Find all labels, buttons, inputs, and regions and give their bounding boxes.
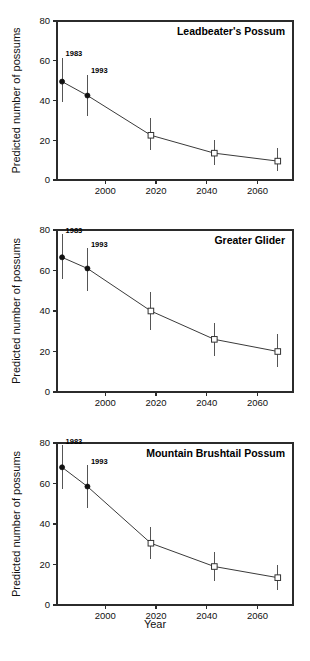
x-axis-tick-label: 2020 [145,185,166,196]
shared-x-axis-label-wrap: Year [0,614,310,632]
possum-population-figure: 0204060802000202020402060Predicted numbe… [0,0,310,661]
data-point-marker-projected [148,308,154,314]
data-point-marker-projected [148,540,154,546]
x-axis-tick-label: 2020 [145,397,166,408]
y-axis-tick-label: 60 [39,55,50,66]
point-annotation-label: 1983 [66,437,83,446]
x-axis-tick-label: 2000 [95,397,116,408]
x-axis-tick-label: 2040 [196,185,217,196]
data-point-marker-projected [148,132,154,138]
y-axis-tick-label: 80 [39,437,50,448]
series-line [62,82,278,161]
data-point-marker-projected [212,337,218,343]
y-axis-tick-label: 60 [39,478,50,489]
y-axis-label: Predicted number of possums [10,237,22,384]
data-point-marker-observed [85,266,90,271]
point-annotation-label: 1993 [91,457,108,466]
y-axis-tick-label: 40 [39,95,50,106]
panel-plot-area: 0204060802000202020402060Predicted numbe… [0,425,310,620]
chart-panel-greater-glider: 0204060802000202020402060Predicted numbe… [0,212,310,425]
y-axis-tick-label: 80 [39,15,50,26]
panel-title: Leadbeater's Possum [177,25,285,37]
plot-frame [57,230,293,392]
y-axis-label: Predicted number of possums [10,450,22,597]
panel-plot-area: 0204060802000202020402060Predicted numbe… [0,0,310,212]
series-line [62,467,278,577]
series-line [62,257,278,351]
data-point-marker-observed [85,93,90,98]
data-point-marker-observed [60,465,65,470]
y-axis-tick-label: 0 [45,599,50,610]
plot-frame [57,443,293,605]
x-axis-tick-label: 2000 [95,185,116,196]
y-axis-tick-label: 0 [45,174,50,185]
data-point-marker-projected [275,158,281,164]
point-annotation-label: 1983 [66,226,83,235]
y-axis-tick-label: 40 [39,518,50,529]
panel-plot-area: 0204060802000202020402060Predicted numbe… [0,212,310,425]
panel-title: Mountain Brushtail Possum [146,447,285,459]
y-axis-tick-label: 20 [39,135,50,146]
data-point-marker-observed [60,79,65,84]
chart-panel-leadbeaters-possum: 0204060802000202020402060Predicted numbe… [0,0,310,212]
x-axis-tick-label: 2060 [247,185,268,196]
x-axis-tick-label: 2060 [247,397,268,408]
data-point-marker-projected [275,575,281,581]
x-axis-label: Year [144,618,166,630]
data-point-marker-observed [60,255,65,260]
point-annotation-label: 1993 [91,66,108,75]
y-axis-tick-label: 20 [39,559,50,570]
chart-panel-mountain-brushtail-possum: 0204060802000202020402060Predicted numbe… [0,425,310,620]
data-point-marker-projected [275,349,281,355]
y-axis-tick-label: 0 [45,386,50,397]
y-axis-tick-label: 60 [39,265,50,276]
y-axis-tick-label: 40 [39,305,50,316]
point-annotation-label: 1983 [66,49,83,58]
y-axis-label: Predicted number of possums [10,27,22,174]
panel-title: Greater Glider [214,234,285,246]
data-point-marker-projected [212,150,218,156]
y-axis-tick-label: 20 [39,346,50,357]
data-point-marker-observed [85,484,90,489]
x-axis-tick-label: 2040 [196,397,217,408]
y-axis-tick-label: 80 [39,224,50,235]
point-annotation-label: 1993 [91,240,108,249]
data-point-marker-projected [212,564,218,570]
plot-frame [57,21,293,180]
